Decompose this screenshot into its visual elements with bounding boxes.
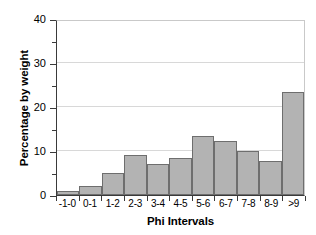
bar xyxy=(192,136,214,195)
bar-slot xyxy=(169,21,191,195)
bar xyxy=(237,151,259,195)
x-axis-title: Phi Intervals xyxy=(56,215,305,227)
x-tick-label: 3-4 xyxy=(147,198,170,209)
x-tick-label: 6-7 xyxy=(214,198,237,209)
bar-series xyxy=(57,21,304,195)
y-tick-label: 20 xyxy=(6,101,46,113)
bar-slot xyxy=(259,21,281,195)
x-tick-label: >9 xyxy=(282,198,305,209)
bar-slot xyxy=(147,21,169,195)
y-tick-minor xyxy=(52,174,56,175)
bar xyxy=(169,158,191,195)
y-tick xyxy=(50,108,56,109)
x-tick-label: 5-6 xyxy=(192,198,215,209)
x-tick-label: 2-3 xyxy=(124,198,147,209)
bar-slot xyxy=(282,21,304,195)
bar xyxy=(79,186,101,195)
bar-chart: Percentage by weight 010203040 -1-00-11-… xyxy=(0,0,316,235)
x-tick-label: 0-1 xyxy=(79,198,102,209)
bar-slot xyxy=(237,21,259,195)
y-tick-label: 30 xyxy=(6,57,46,69)
x-tick xyxy=(305,196,306,201)
y-tick-label: 40 xyxy=(6,13,46,25)
bar xyxy=(124,155,146,195)
bar-slot xyxy=(79,21,101,195)
bar-slot xyxy=(214,21,236,195)
y-tick-minor xyxy=(52,42,56,43)
y-tick-minor xyxy=(52,86,56,87)
x-tick-label: 7-8 xyxy=(237,198,260,209)
bar xyxy=(214,141,236,195)
x-tick-label: 4-5 xyxy=(169,198,192,209)
y-tick xyxy=(50,152,56,153)
y-tick-label: 10 xyxy=(6,145,46,157)
bar xyxy=(282,92,304,195)
bar xyxy=(57,191,79,195)
bar-slot xyxy=(57,21,79,195)
bar-slot xyxy=(102,21,124,195)
x-tick-label: 1-2 xyxy=(101,198,124,209)
x-tick-label: -1-0 xyxy=(56,198,79,209)
x-tick-label: 8-9 xyxy=(260,198,283,209)
bar-slot xyxy=(124,21,146,195)
y-tick-label: 0 xyxy=(6,189,46,201)
x-axis-tick-labels: -1-00-11-22-33-44-55-66-77-88-9>9 xyxy=(56,198,305,209)
y-tick-minor xyxy=(52,130,56,131)
bar-slot xyxy=(192,21,214,195)
bar xyxy=(259,161,281,195)
y-tick xyxy=(50,64,56,65)
y-tick xyxy=(50,20,56,21)
bar xyxy=(147,164,169,195)
bar xyxy=(102,173,124,195)
plot-area xyxy=(56,20,305,196)
